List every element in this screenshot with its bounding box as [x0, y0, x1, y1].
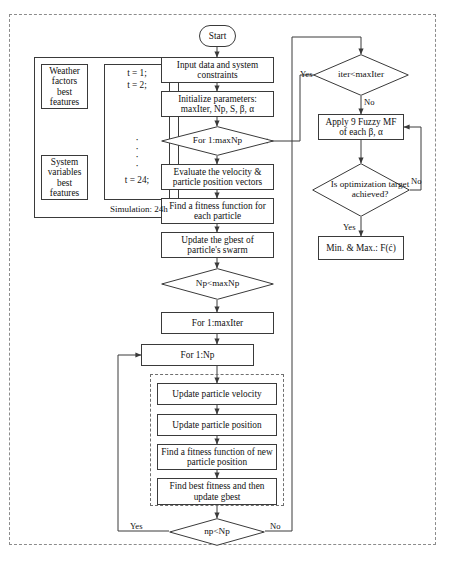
flowchart-canvas: Weather factors best features System var…	[0, 0, 451, 568]
iter-yes-label: Yes	[300, 69, 313, 79]
update-particle-position-box: Update particle position	[157, 414, 277, 436]
is-target-achieved-shape	[312, 163, 410, 217]
np-yes-label: Yes	[130, 521, 143, 531]
time-step-dot-4: ·	[135, 161, 139, 170]
np-lt-maxnp-decision: Np<maxNp	[161, 268, 274, 300]
iter-lt-maxiter-shape	[313, 54, 409, 96]
fitness-each-particle-box: Find a fitness function for each particl…	[161, 198, 274, 224]
time-step-first: t = 1;	[127, 68, 147, 80]
target-no-label: No	[411, 176, 422, 186]
initialize-parameters-box: Initialize parameters: maxIter, Np, S, β…	[161, 91, 274, 117]
update-gbest-box: Update the gbest of particle's swarm	[161, 232, 274, 258]
np-lt-np-shape	[169, 518, 265, 546]
np-lt-np-decision: np<Np	[169, 518, 265, 546]
start-terminator: Start	[199, 25, 236, 47]
evaluate-velocity-box: Evaluate the velocity & particle positio…	[161, 164, 274, 190]
is-target-achieved-decision: Is optimization target achieved?	[312, 163, 410, 217]
simulation-caption: Simulation: 24h	[110, 204, 168, 214]
fitness-new-position-box: Find a fitness function of new particle …	[157, 444, 277, 470]
for-1-maxiter-box: For 1:maxIter	[161, 312, 274, 334]
system-variables-box: System variables best features	[41, 155, 88, 200]
input-data-box: Input data and system constraints	[161, 57, 274, 83]
iter-no-label: No	[364, 97, 375, 107]
time-step-second: t = 2;	[127, 80, 147, 92]
np-no-label: No	[270, 521, 281, 531]
for-1-maxnp-shape	[161, 126, 274, 156]
time-step-last: t = 24;	[125, 175, 149, 187]
update-particle-velocity-box: Update particle velocity	[157, 383, 277, 405]
apply-fuzzy-mf-box: Apply 9 Fuzzy MF of each β, α	[318, 114, 404, 140]
min-max-result-box: Min. & Max.: F(ć)	[318, 236, 404, 260]
np-lt-maxnp-shape	[161, 268, 274, 300]
for-1-maxnp-decision: For 1:maxNp	[161, 126, 274, 156]
iter-lt-maxiter-decision: iter<maxIter	[313, 54, 409, 96]
best-fitness-update-gbest-box: Find best fitness and then update gbest	[157, 478, 277, 505]
target-yes-label: Yes	[343, 222, 356, 232]
for-1-np-box: For 1:Np	[141, 344, 254, 366]
weather-factors-box: Weather factors best features	[41, 64, 88, 109]
